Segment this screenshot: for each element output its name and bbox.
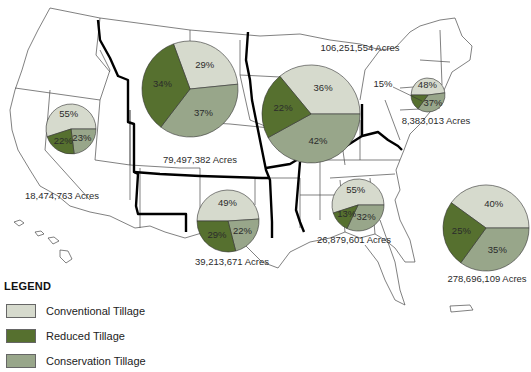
pie-chart-northern-plains: 29%37%34%79,497,382 Acres [142, 41, 238, 165]
legend-label: Conventional Tillage [46, 305, 145, 317]
acres-label: 26,879,601 Acres [317, 234, 391, 245]
legend-label: Reduced Tillage [46, 330, 125, 342]
pie-slice-label: 42% [309, 135, 329, 146]
acres-label: 106,251,554 Acres [320, 42, 399, 53]
pie-slice-label: 22% [233, 225, 253, 236]
pie-slice-label: 36% [314, 82, 334, 93]
pie-slice-label: 22% [54, 135, 74, 146]
pie-chart-southern-plains: 49%22%29%39,213,671 Acres [195, 190, 269, 267]
pie-slice-label: 55% [59, 108, 79, 119]
swatch-reduced [6, 329, 36, 343]
pie-chart-southeast: 40%35%25%278,696,109 Acres [443, 185, 529, 284]
pie-slice-label: 48% [418, 79, 438, 90]
acres-label: 79,497,382 Acres [163, 154, 237, 165]
legend-title: LEGEND [4, 280, 184, 292]
swatch-conventional [6, 304, 36, 318]
pie-slice-label: 29% [195, 59, 215, 70]
acres-label: 278,696,109 Acres [447, 273, 526, 284]
pie-chart-delta: 55%32%13%26,879,601 Acres [317, 179, 391, 245]
pie-slice-label: 37% [424, 97, 444, 108]
pie-slice-label: 13% [337, 208, 357, 219]
legend: LEGEND Conventional Tillage Reduced Till… [4, 280, 184, 372]
pie-slice-label: 34% [153, 78, 173, 89]
pie-slice-label: 49% [218, 197, 238, 208]
pie-chart-northeast: 48%37%15%8,383,013 Acres [373, 78, 470, 126]
pie-slice-label: 35% [488, 244, 508, 255]
pie-slice-label: 29% [207, 229, 227, 240]
acres-label: 39,213,671 Acres [195, 256, 269, 267]
pie-slice-label-outside: 15% [373, 78, 393, 89]
pie-slice-label: 32% [357, 211, 377, 222]
pie-slice-label: 22% [274, 102, 294, 113]
pie-slice-label: 55% [346, 184, 366, 195]
pie-slice-label: 40% [484, 198, 504, 209]
pie-slice-label: 23% [72, 132, 92, 143]
legend-item-conservation: Conservation Tillage [4, 348, 184, 372]
legend-item-reduced: Reduced Tillage [4, 323, 184, 348]
legend-item-conventional: Conventional Tillage [4, 298, 184, 323]
pie-chart-west: 55%23%22%18,474,763 Acres [25, 104, 99, 201]
pie-slice-label: 37% [194, 107, 214, 118]
legend-label: Conservation Tillage [46, 355, 146, 367]
swatch-conservation [6, 354, 36, 368]
pie-slice-label: 25% [452, 225, 472, 236]
acres-label: 18,474,763 Acres [25, 190, 99, 201]
pie-chart-midwest: 36%42%22%106,251,554 Acres [262, 42, 400, 163]
acres-label: 8,383,013 Acres [402, 115, 471, 126]
